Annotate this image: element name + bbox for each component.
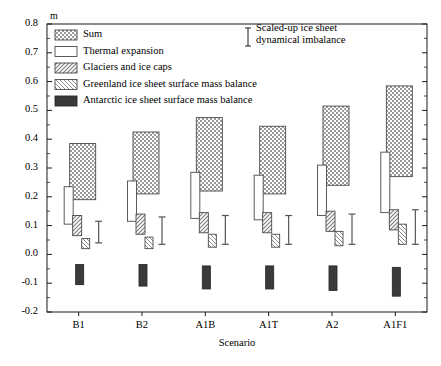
x-axis-title: Scenario <box>177 337 297 348</box>
x-axis-ticks <box>79 312 396 316</box>
bar-thermal-expansion-A1B <box>191 172 200 218</box>
legend-label: Greenland ice sheet surface mass balance <box>83 78 257 89</box>
error-bar-A1T <box>285 216 292 245</box>
y-tick-label: 0.8 <box>8 17 38 28</box>
bar-thermal-expansion-A1T <box>254 175 263 220</box>
x-tick-label: A2 <box>302 319 362 330</box>
error-bar-B2 <box>159 217 166 244</box>
bar-antarctic-ice-sheet-surface-mass-balance-A1T <box>266 266 274 289</box>
bar-glaciers-and-ice-caps-A1B <box>199 213 208 233</box>
bar-glaciers-and-ice-caps-A1F1 <box>389 210 398 230</box>
legend-swatches <box>55 30 77 106</box>
chart-canvas <box>0 0 441 366</box>
error-bar-A1F1 <box>412 210 419 245</box>
x-tick-label: B1 <box>49 319 109 330</box>
y-tick-label: 0.4 <box>8 132 38 143</box>
y-tick-label: 0.0 <box>8 247 38 258</box>
x-tick-label: A1B <box>175 319 235 330</box>
bar-thermal-expansion-A2 <box>318 165 327 215</box>
bar-greenland-ice-sheet-surface-mass-balance-A1F1 <box>398 224 406 244</box>
error-bar-A2 <box>349 214 356 244</box>
legend-swatch-hatch-left <box>55 80 77 90</box>
error-bar-B1 <box>95 221 102 243</box>
y-tick-label: 0.6 <box>8 75 38 86</box>
bar-thermal-expansion-B2 <box>128 181 137 221</box>
bar-greenland-ice-sheet-surface-mass-balance-A2 <box>335 231 343 245</box>
y-axis-unit-label: m <box>50 10 58 21</box>
bar-glaciers-and-ice-caps-A1T <box>263 213 272 233</box>
legend-label: Thermal expansion <box>83 45 164 56</box>
bars-group <box>64 86 412 296</box>
x-tick-label: B2 <box>112 319 172 330</box>
bar-greenland-ice-sheet-surface-mass-balance-A1B <box>208 234 216 247</box>
bar-greenland-ice-sheet-surface-mass-balance-A1T <box>272 234 280 247</box>
legend-label: Sum <box>83 28 102 39</box>
y-tick-label: 0.1 <box>8 219 38 230</box>
y-tick-label: 0.7 <box>8 46 38 57</box>
bar-antarctic-ice-sheet-surface-mass-balance-B1 <box>76 264 84 284</box>
legend-label: Glaciers and ice caps <box>83 61 172 72</box>
bar-glaciers-and-ice-caps-B1 <box>73 216 82 236</box>
bar-thermal-expansion-A1F1 <box>381 152 390 212</box>
bar-glaciers-and-ice-caps-B2 <box>136 214 145 234</box>
x-tick-label: A1T <box>239 319 299 330</box>
bar-glaciers-and-ice-caps-A2 <box>326 211 335 231</box>
y-tick-label: 0.2 <box>8 190 38 201</box>
bar-antarctic-ice-sheet-surface-mass-balance-A1F1 <box>392 267 400 296</box>
chart-container: m 0.80.70.60.50.40.30.20.10.0-0.1-0.2 B1… <box>0 0 441 366</box>
y-tick-label: 0.3 <box>8 161 38 172</box>
error-bar-A1B <box>222 216 229 245</box>
y-tick-label: -0.1 <box>8 276 38 287</box>
annotation-line-1: Scaled-up ice sheet <box>256 22 337 34</box>
annotation-line-2: dynamical imbalance <box>256 34 346 46</box>
bar-thermal-expansion-B1 <box>64 187 73 224</box>
bar-antarctic-ice-sheet-surface-mass-balance-A2 <box>329 266 337 290</box>
annotation-bracket-icon <box>245 28 251 46</box>
legend-swatch-white <box>55 47 77 57</box>
legend-swatch-solid-dark <box>55 96 77 106</box>
y-tick-label: -0.2 <box>8 305 38 316</box>
legend-swatch-hatch-right <box>55 63 77 73</box>
x-tick-label: A1F1 <box>365 319 425 330</box>
bar-antarctic-ice-sheet-surface-mass-balance-B2 <box>139 264 147 286</box>
legend-swatch-checker <box>55 30 77 40</box>
y-tick-label: 0.5 <box>8 103 38 114</box>
bar-antarctic-ice-sheet-surface-mass-balance-A1B <box>202 266 210 289</box>
bar-greenland-ice-sheet-surface-mass-balance-B2 <box>145 237 153 249</box>
legend-label: Antarctic ice sheet surface mass balance <box>83 94 252 105</box>
bar-greenland-ice-sheet-surface-mass-balance-B1 <box>82 239 90 249</box>
